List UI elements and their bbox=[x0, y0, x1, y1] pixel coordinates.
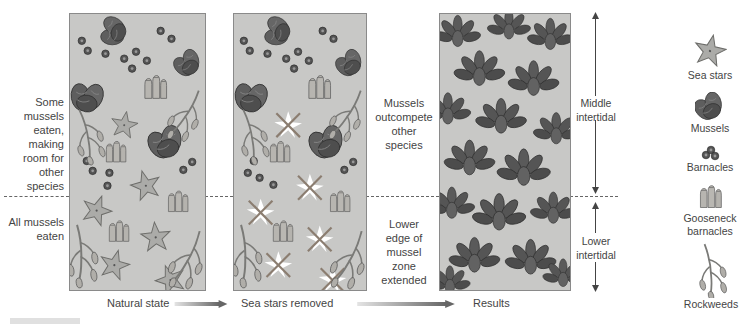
label-line: outcompete bbox=[370, 110, 438, 124]
barnacle-icon bbox=[700, 145, 720, 161]
legend-label: Gooseneck barnacles bbox=[676, 212, 744, 238]
legend-item-barnacles: Barnacles bbox=[680, 145, 740, 174]
label-line: Middle bbox=[567, 96, 625, 110]
label-line: Lower bbox=[370, 217, 438, 231]
label-middle-intertidal: Middle intertidal bbox=[567, 96, 625, 124]
label-line: zone bbox=[370, 259, 438, 273]
caption-results: Results bbox=[473, 297, 510, 309]
label-line: Mussels bbox=[370, 96, 438, 110]
legend-item-rockweeds: Rockweeds bbox=[678, 242, 744, 311]
legend-item-sea-stars: Sea stars bbox=[680, 33, 740, 82]
label-some-mussels-eaten: Some mussels eaten, making room for othe… bbox=[6, 95, 64, 193]
panel-results bbox=[439, 13, 571, 291]
label-line: intertidal bbox=[567, 248, 625, 262]
label-line: making bbox=[6, 137, 64, 151]
flow-arrow-icon bbox=[168, 300, 234, 308]
zone-boundary-line bbox=[570, 196, 618, 197]
label-line: Some bbox=[6, 95, 64, 109]
rockweed-icon bbox=[694, 242, 728, 298]
label-line: Lower bbox=[567, 234, 625, 248]
label-line: mussels bbox=[6, 109, 64, 123]
legend-label: Sea stars bbox=[680, 69, 740, 82]
sea-stars-removed-illustration bbox=[234, 14, 366, 290]
label-line: eaten, bbox=[6, 123, 64, 137]
legend-label: Barnacles bbox=[680, 161, 740, 174]
label-line: other bbox=[6, 165, 64, 179]
label-line: other bbox=[370, 124, 438, 138]
label-mussels-outcompete: Mussels outcompete other species bbox=[370, 96, 438, 152]
panel-sea-stars-removed bbox=[233, 13, 367, 291]
caption-natural-state: Natural state bbox=[107, 297, 169, 309]
label-line: mussel bbox=[370, 245, 438, 259]
label-lower-intertidal: Lower intertidal bbox=[567, 234, 625, 262]
mussel-icon bbox=[695, 92, 725, 122]
natural-state-illustration bbox=[70, 14, 205, 290]
zone-boundary-line bbox=[4, 196, 69, 197]
label-line: intertidal bbox=[567, 110, 625, 124]
label-line: edge of bbox=[370, 231, 438, 245]
figure-label bbox=[10, 318, 80, 324]
label-line: All mussels bbox=[0, 215, 64, 229]
label-lower-edge-extended: Lower edge of mussel zone extended bbox=[370, 217, 438, 287]
panel-natural-state bbox=[69, 13, 206, 291]
label-line: room for bbox=[6, 151, 64, 165]
zone-boundary-line bbox=[205, 196, 233, 197]
label-line: eaten bbox=[0, 229, 64, 243]
legend-item-gooseneck-barnacles: Gooseneck barnacles bbox=[676, 184, 744, 238]
legend-label: Rockweeds bbox=[678, 298, 744, 311]
legend-label: Mussels bbox=[680, 122, 740, 135]
label-all-mussels-eaten: All mussels eaten bbox=[0, 215, 64, 243]
label-line: extended bbox=[370, 273, 438, 287]
legend-item-mussels: Mussels bbox=[680, 92, 740, 135]
caption-sea-stars-removed: Sea stars removed bbox=[241, 297, 333, 309]
results-illustration bbox=[440, 14, 570, 290]
gooseneck-barnacle-icon bbox=[697, 184, 723, 212]
label-line: species bbox=[370, 138, 438, 152]
flow-arrow-icon bbox=[345, 300, 467, 308]
zone-boundary-line bbox=[366, 196, 439, 197]
label-line: species bbox=[6, 179, 64, 193]
sea-star-icon bbox=[693, 33, 727, 69]
